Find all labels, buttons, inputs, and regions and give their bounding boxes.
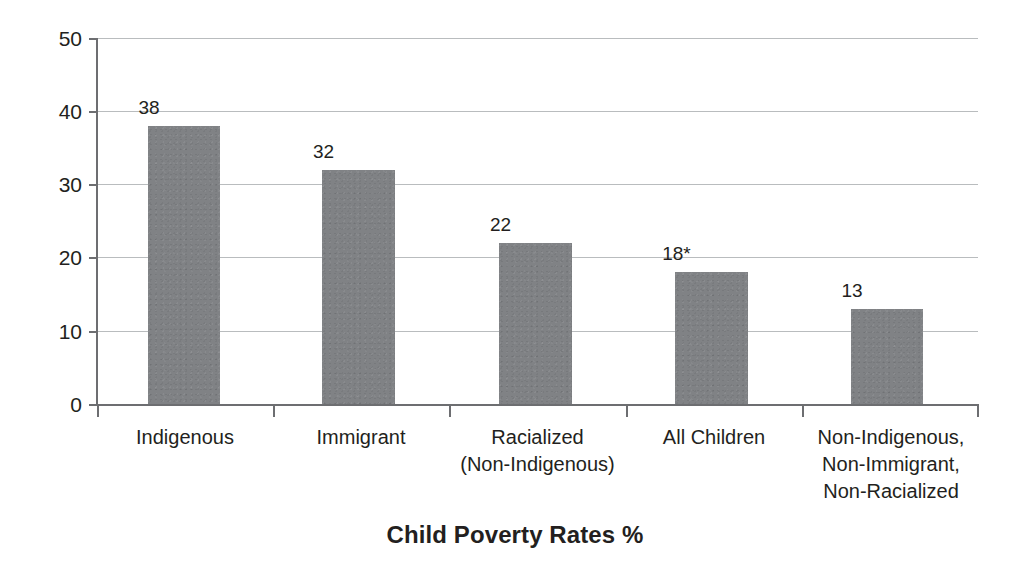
y-tick-mark-30 — [89, 184, 98, 186]
bar-indigenous — [148, 126, 220, 404]
y-tick-label-20: 20 — [59, 247, 82, 268]
x-category-label-all-children: All Children — [626, 424, 802, 451]
x-category-line: All Children — [626, 424, 802, 451]
bar-chart: 50 40 30 20 10 0 38 32 22 18* 13 Indigen… — [0, 0, 1030, 572]
gridline-50 — [97, 38, 978, 39]
x-category-line: Non-Immigrant, — [796, 451, 986, 478]
x-axis-line — [97, 404, 979, 406]
gridline-40 — [97, 111, 978, 112]
bar-all-children — [675, 272, 748, 404]
x-category-line: Non-Indigenous, — [796, 424, 986, 451]
y-tick-mark-50 — [89, 38, 98, 40]
y-tick-label-50: 50 — [59, 28, 82, 49]
gridline-30 — [97, 184, 978, 185]
bar-value-indigenous: 38 — [113, 98, 185, 117]
bar-immigrant — [322, 170, 395, 404]
bar-value-racialized: 22 — [464, 215, 537, 234]
y-tick-label-40: 40 — [59, 101, 82, 122]
bar-value-non-indigenous-non-immigrant-non-racialized: 13 — [816, 281, 888, 300]
y-tick-label-10: 10 — [59, 321, 82, 342]
x-category-line: Indigenous — [97, 424, 273, 451]
y-tick-mark-40 — [89, 111, 98, 113]
x-category-line: (Non-Indigenous) — [449, 451, 626, 478]
x-tick-mark-5 — [977, 404, 979, 417]
chart-title: Child Poverty Rates % — [0, 521, 1030, 549]
x-category-line: Immigrant — [273, 424, 449, 451]
y-tick-label-0: 0 — [70, 394, 82, 415]
bar-non-indigenous-non-immigrant-non-racialized — [851, 309, 923, 404]
x-category-line: Non-Racialized — [796, 478, 986, 505]
x-tick-mark-3 — [626, 404, 628, 417]
bar-racialized — [499, 243, 572, 404]
x-category-label-immigrant: Immigrant — [273, 424, 449, 451]
x-tick-mark-1 — [273, 404, 275, 417]
x-category-label-racialized: Racialized (Non-Indigenous) — [449, 424, 626, 478]
x-tick-mark-0 — [97, 404, 99, 417]
plot-area — [97, 38, 978, 404]
y-tick-label-30: 30 — [59, 174, 82, 195]
y-tick-mark-20 — [89, 257, 98, 259]
y-axis-line — [96, 38, 98, 405]
x-category-label-indigenous: Indigenous — [97, 424, 273, 451]
bar-value-immigrant: 32 — [287, 142, 360, 161]
x-category-label-non-indigenous-non-immigrant-non-racialized: Non-Indigenous, Non-Immigrant, Non-Racia… — [796, 424, 986, 505]
y-tick-mark-10 — [89, 331, 98, 333]
x-category-line: Racialized — [449, 424, 626, 451]
bar-value-all-children: 18* — [640, 244, 713, 263]
x-tick-mark-4 — [802, 404, 804, 417]
x-tick-mark-2 — [449, 404, 451, 417]
